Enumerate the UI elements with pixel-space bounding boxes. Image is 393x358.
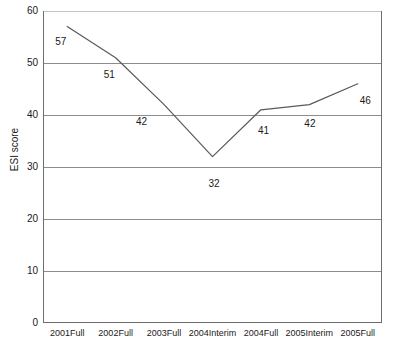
y-axis-tick-labels: 0102030405060	[8, 0, 38, 358]
gridlines	[43, 12, 382, 324]
x-axis-tick-label: 2003Full	[140, 328, 188, 339]
data-point-label: 42	[304, 119, 315, 129]
x-axis-tick-label: 2005Interim	[285, 328, 333, 339]
x-axis-tick-label: 2004Interim	[188, 328, 236, 339]
x-axis-tick-labels: 2001Full2002Full2003Full2004Interim2004F…	[43, 328, 382, 348]
x-axis-tick-label: 2001Full	[43, 328, 91, 339]
x-axis-tick-label: 2002Full	[91, 328, 139, 339]
y-axis-tick-label: 10	[12, 266, 38, 276]
x-axis-tick-label: 2005Full	[334, 328, 382, 339]
y-axis-tick-label: 60	[12, 6, 38, 16]
y-axis-tick-label: 0	[12, 318, 38, 328]
plot-svg	[43, 11, 382, 323]
y-axis-tick-label: 40	[12, 110, 38, 120]
y-axis-tick-label: 50	[12, 58, 38, 68]
data-point-label: 57	[55, 37, 66, 47]
x-axis-tick-label: 2004Full	[237, 328, 285, 339]
esi-score-line-chart: ESI score 0102030405060 57514232414246 2…	[0, 0, 393, 358]
data-point-label: 32	[209, 179, 220, 189]
data-series-line	[67, 27, 358, 157]
data-point-label: 46	[360, 96, 371, 106]
data-point-label: 51	[104, 70, 115, 80]
y-axis-tick-label: 30	[12, 162, 38, 172]
y-axis-tick-label: 20	[12, 214, 38, 224]
data-point-label: 41	[258, 126, 269, 136]
data-point-label: 42	[136, 117, 147, 127]
plot-area: 57514232414246	[43, 11, 382, 323]
